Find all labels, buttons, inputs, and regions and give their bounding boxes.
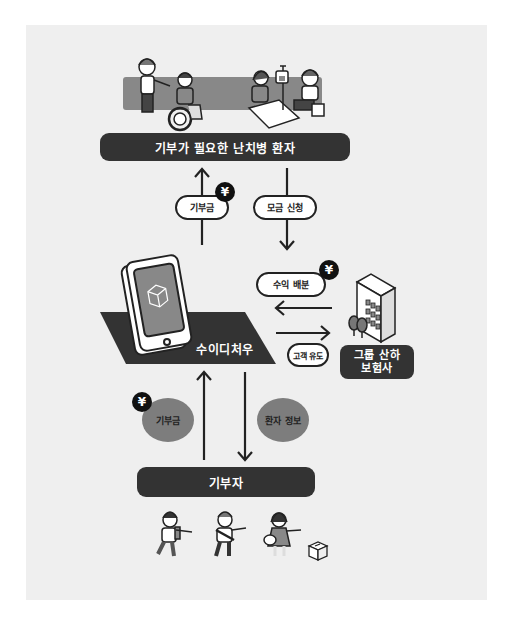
customer-referral-pill: 고객 유도 xyxy=(287,343,329,367)
insurer-bar: 그룹 산하 보험사 xyxy=(340,345,414,379)
arrow-patient-info-down xyxy=(238,372,252,460)
fundraising-request-pill: 모금 신청 xyxy=(253,195,317,220)
patient-info-oval: 환자 정보 xyxy=(257,398,309,442)
donor-label: 기부자 xyxy=(209,474,244,491)
ballot-box-icon xyxy=(309,542,327,560)
platform-label: 수이디처우 xyxy=(196,340,254,357)
arrow-donation-up-from-donors xyxy=(197,372,211,460)
patients-label: 기부가 필요한 난치병 환자 xyxy=(155,139,296,156)
donor-figure-2-icon xyxy=(216,512,246,556)
patients-bar: 기부가 필요한 난치병 환자 xyxy=(100,133,350,161)
yen-icon: ¥ xyxy=(132,392,152,412)
donor-figure-1-icon xyxy=(158,512,192,556)
donor-figure-3-icon xyxy=(264,513,301,556)
yen-icon: ¥ xyxy=(319,260,339,280)
arrow-revenue-left xyxy=(276,301,332,315)
building-icon xyxy=(349,274,395,342)
yen-icon: ¥ xyxy=(215,182,235,202)
diagram-illustrations xyxy=(0,0,512,621)
revenue-share-pill: 수익 배분 xyxy=(256,272,326,297)
donor-bar: 기부자 xyxy=(137,467,315,497)
arrow-referral-right xyxy=(276,326,329,340)
